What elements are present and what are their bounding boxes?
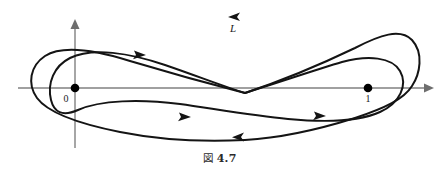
y-axis-arrow-up-icon	[71, 19, 80, 29]
direction-arrow-inner-lower-right-icon	[313, 111, 326, 120]
contour-label-L: L	[229, 22, 236, 34]
inner-loop-path	[50, 52, 403, 121]
point-zero-dot	[71, 84, 80, 93]
axes-group	[18, 19, 434, 148]
direction-arrow-outer-upper-icon	[228, 13, 240, 21]
direction-arrow-inner-lower-left-icon	[178, 112, 191, 121]
x-axis-arrow-right-icon	[424, 84, 434, 93]
point-zero-label: 0	[64, 93, 69, 104]
inner-contour-curve	[50, 52, 403, 121]
caption-number: 4.7	[217, 152, 237, 165]
figure-caption: 図4.7	[0, 150, 440, 165]
point-one-dot	[364, 84, 373, 93]
point-one-label: 1	[366, 93, 371, 104]
figure-container: 0 1 L 図4.7	[0, 0, 440, 177]
caption-mark-glyph: 図	[203, 150, 213, 165]
